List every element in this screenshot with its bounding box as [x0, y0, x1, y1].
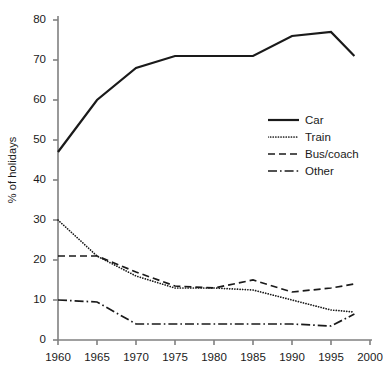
- legend-line-swatch: [268, 165, 299, 177]
- legend-item-label: Bus/coach: [305, 148, 359, 160]
- legend-item-label: Other: [305, 165, 334, 177]
- legend-line-swatch: [268, 131, 299, 143]
- axes: [53, 16, 372, 345]
- series-line-train: [58, 220, 354, 312]
- legend: CarTrainBus/coachOther: [268, 112, 382, 180]
- series-line-bus-coach: [58, 256, 354, 292]
- legend-item-bus-coach: Bus/coach: [268, 146, 382, 161]
- legend-item-label: Train: [305, 131, 331, 143]
- series-line-other: [58, 300, 354, 326]
- legend-line-swatch: [268, 148, 299, 160]
- legend-line-swatch: [268, 114, 299, 126]
- legend-item-label: Car: [305, 114, 324, 126]
- legend-item-train: Train: [268, 129, 382, 144]
- legend-item-other: Other: [268, 163, 382, 178]
- legend-item-car: Car: [268, 112, 382, 127]
